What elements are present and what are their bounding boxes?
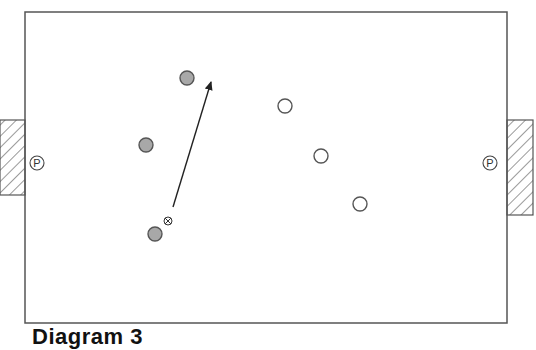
- grey-player: [180, 71, 194, 85]
- pass-arrow: [173, 82, 211, 207]
- grey-player: [148, 227, 162, 241]
- white-player: [278, 99, 292, 113]
- pitch-boundary: [25, 12, 507, 323]
- left-goal: [0, 120, 25, 195]
- ball-icon: [164, 217, 172, 225]
- left-goalkeeper-marker: P: [30, 156, 44, 170]
- svg-text:P: P: [33, 157, 40, 169]
- white-player: [314, 149, 328, 163]
- right-goal: [507, 120, 533, 215]
- grey-player: [139, 138, 153, 152]
- right-goalkeeper-marker: P: [483, 156, 497, 170]
- goals: [0, 120, 533, 215]
- diagram-caption: Diagram 3: [32, 324, 143, 350]
- team-white-players: [278, 99, 367, 211]
- team-grey-players: [139, 71, 194, 241]
- white-player: [353, 197, 367, 211]
- svg-text:P: P: [486, 157, 493, 169]
- goalkeeper-markers: PP: [30, 156, 497, 170]
